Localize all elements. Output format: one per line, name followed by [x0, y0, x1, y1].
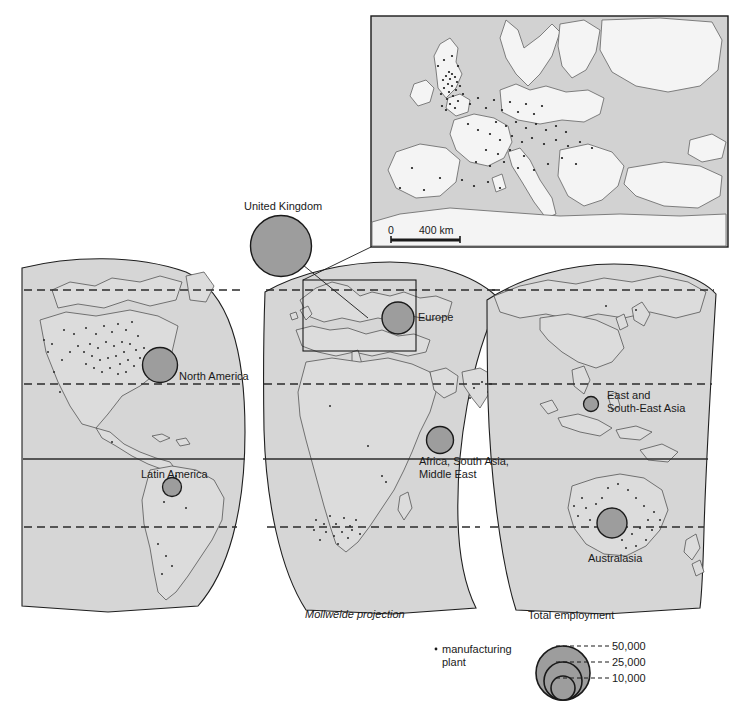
inset-scale-distance-label: 400 km [419, 224, 453, 237]
inset-map-europe [371, 16, 728, 247]
region-label-africa-south-asia-middle-east: Africa, South Asia, Middle East [419, 455, 509, 480]
legend-value-25000: 25,000 [612, 656, 646, 669]
legend-plant-marker-label: manufacturing plant [442, 643, 512, 668]
region-label-europe: Europe [418, 311, 453, 324]
legend-value-50000: 50,000 [612, 640, 646, 653]
figure-root: United Kingdom North America Latin Ameri… [0, 0, 737, 721]
region-circle-north-america[interactable] [143, 348, 178, 383]
region-circle-united-kingdom[interactable] [251, 216, 312, 277]
region-label-north-america: North America [179, 370, 249, 383]
region-circle-east-and-south-east-asia[interactable] [584, 397, 599, 412]
region-label-australasia: Australasia [588, 552, 642, 565]
region-circle-africa-south-asia-middle-east[interactable] [427, 427, 454, 454]
inset-scale-zero-label: 0 [388, 224, 394, 237]
region-label-east-and-south-east-asia: East and South-East Asia [607, 389, 685, 414]
region-label-latin-america: Latin America [141, 468, 208, 481]
legend-title: Total employment [528, 609, 614, 622]
lobe-americas [22, 259, 245, 612]
legend-circle-10000[interactable] [551, 676, 575, 700]
region-circle-australasia[interactable] [597, 508, 627, 538]
projection-note: Mollweide projection [305, 608, 405, 621]
region-circle-europe[interactable] [382, 302, 414, 334]
world-map-group [22, 16, 728, 700]
legend-plant-dot [435, 648, 438, 651]
region-label-united-kingdom: United Kingdom [244, 200, 322, 213]
legend-value-10000: 10,000 [612, 672, 646, 685]
